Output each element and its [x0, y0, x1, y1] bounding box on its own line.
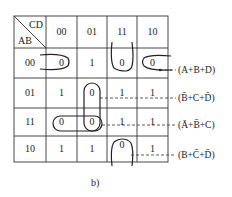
kmap-cell: 0	[120, 139, 125, 150]
row-header: 01	[25, 87, 35, 98]
group-label: (B̄+C+D̄)	[178, 92, 215, 104]
kmap-cell: 0	[90, 87, 95, 98]
kmap-cell: 1	[59, 143, 64, 154]
kmap-cell: 0	[59, 57, 64, 68]
kmap-cell: 1	[150, 87, 155, 98]
group-label: (B+C̄+D̄)	[178, 149, 215, 161]
col-header: 00	[57, 26, 67, 37]
group-label: (Ā+B̄+C)	[178, 119, 215, 131]
kmap-cell: 1	[90, 57, 95, 68]
kmap-cell: 1	[120, 87, 125, 98]
kmap-cell: 1	[90, 143, 95, 154]
kmap-cell: 0	[90, 116, 95, 127]
kmap-cell: 0	[150, 57, 155, 68]
kmap-cell: 0	[120, 57, 125, 68]
row-header: 00	[25, 57, 35, 68]
col-header: 01	[87, 26, 97, 37]
kmap-cell: 1	[59, 87, 64, 98]
row-variable-label: AB	[18, 35, 32, 46]
group-label: (A+B+D)	[178, 65, 215, 76]
kmap-cell: 1	[150, 143, 155, 154]
row-header: 10	[25, 143, 35, 154]
figure-caption: b)	[91, 177, 99, 189]
row-header: 11	[25, 116, 35, 127]
karnaugh-map-diagram: CD AB 00 01 11 10 00 01 11 10 0 1 0 0 1 …	[0, 0, 232, 197]
col-header: 10	[148, 26, 158, 37]
kmap-cell: 0	[59, 116, 64, 127]
group-loop-a-b-d-left	[40, 54, 69, 69]
col-variable-label: CD	[29, 19, 43, 30]
col-header: 11	[117, 26, 127, 37]
